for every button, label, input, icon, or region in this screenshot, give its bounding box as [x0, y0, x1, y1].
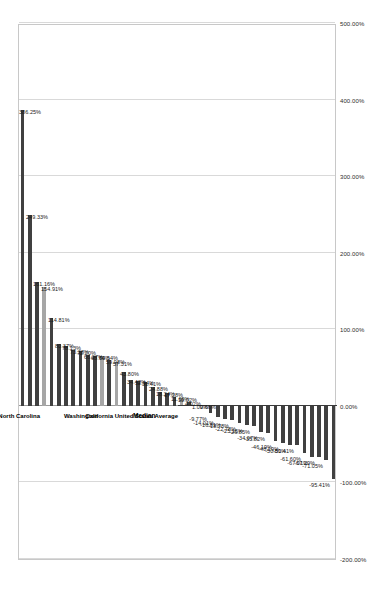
bar-value-label: 43.80%: [120, 371, 139, 377]
bar: [295, 406, 299, 445]
bar: [107, 360, 111, 406]
bar: [122, 372, 126, 406]
plot-area: [18, 24, 336, 560]
bar-value-label: 154.91%: [41, 286, 63, 292]
bar: [310, 406, 314, 457]
bar: [252, 406, 256, 427]
gridline--100: [19, 481, 335, 482]
bar-value-label: 386.25%: [19, 109, 41, 115]
bar: [71, 350, 75, 406]
axis-tick-label: 300.00%: [340, 174, 364, 180]
gridline-200: [19, 252, 335, 253]
chart-figure: 500.00%400.00%300.00%200.00%100.00%0.00%…: [0, 0, 376, 590]
bar: [57, 344, 61, 406]
bar: [50, 318, 54, 406]
bar: [79, 351, 83, 406]
bar-value-label: 57.31%: [113, 361, 132, 367]
bar-value-label: -71.05%: [302, 463, 323, 469]
bar: [93, 356, 97, 406]
bar: [216, 406, 220, 417]
bar: [259, 406, 263, 432]
bar: [281, 406, 285, 443]
axis-tick-label: -100.00%: [340, 480, 367, 486]
gridline-400: [19, 99, 335, 100]
bar: [245, 406, 249, 425]
bar: [64, 346, 68, 406]
bar: [35, 282, 39, 405]
bar: [86, 355, 90, 406]
bar: [274, 406, 278, 441]
bar: [21, 110, 25, 406]
bar: [115, 362, 119, 406]
median-label: Median: [133, 412, 155, 419]
bar-value-label: -51.41%: [273, 448, 294, 454]
bar-value-label: -35.82%: [244, 436, 265, 442]
bar: [42, 287, 46, 406]
gridline-100: [19, 328, 335, 329]
category-label: California: [85, 413, 113, 419]
axis-tick-label: 200.00%: [340, 251, 364, 257]
axis-tick-label: -200.00%: [340, 557, 367, 563]
bar: [100, 356, 104, 405]
bar: [238, 406, 242, 423]
bar-value-label: 249.33%: [26, 214, 48, 220]
bar: [317, 406, 321, 458]
bar: [332, 406, 336, 479]
bar: [266, 406, 270, 433]
axis-tick-label: 0.00%: [340, 404, 358, 410]
bar-value-label: -95.41%: [309, 482, 330, 488]
gridline-300: [19, 175, 335, 176]
bar: [288, 406, 292, 445]
bar-value-label: 0.66%: [200, 404, 216, 410]
gridline-500: [19, 22, 335, 23]
axis-tick-label: 100.00%: [340, 327, 364, 333]
axis-tick-label: 500.00%: [340, 21, 364, 27]
bar: [303, 406, 307, 453]
bar: [223, 406, 227, 419]
bar: [230, 406, 234, 420]
bar-value-label: 114.81%: [48, 317, 70, 323]
gridline--200: [19, 558, 335, 559]
axis-tick-label: 400.00%: [340, 98, 364, 104]
bar: [28, 215, 32, 406]
bar: [324, 406, 328, 460]
category-label: North Carolina: [0, 413, 40, 419]
